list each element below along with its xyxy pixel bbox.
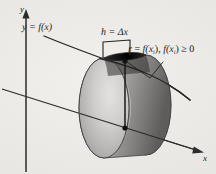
radius-label-tail: ) ≥ 0 xyxy=(175,44,194,55)
radius-label: r = f(xi), f(xi) ≥ 0 xyxy=(128,45,194,56)
function-curve-label: y = f(x) xyxy=(22,23,52,33)
thickness-label: h = Δx xyxy=(101,28,128,38)
radius-label-fx-first: f(x xyxy=(143,44,154,55)
radius-center-point xyxy=(122,125,127,130)
y-axis-label: y xyxy=(20,5,24,14)
radius-top-point xyxy=(122,58,127,63)
radius-label-equals: = xyxy=(132,44,143,55)
thickness-label-prefix: h = xyxy=(101,27,118,38)
thickness-label-value: Δx xyxy=(118,27,128,38)
radius-label-fx-second: f(x xyxy=(163,44,174,55)
axis-y xyxy=(22,9,29,172)
figure-canvas: y x y = f(x) h = Δx r = f(xi), f(xi) ≥ 0 xyxy=(0,0,216,174)
radius-label-separator: ), xyxy=(155,44,163,55)
x-axis-label: x xyxy=(203,154,207,163)
